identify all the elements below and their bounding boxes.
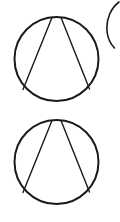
canvas-background (0, 0, 120, 222)
figure-canvas: Two circles with inscribed chord pairs (0, 0, 120, 222)
